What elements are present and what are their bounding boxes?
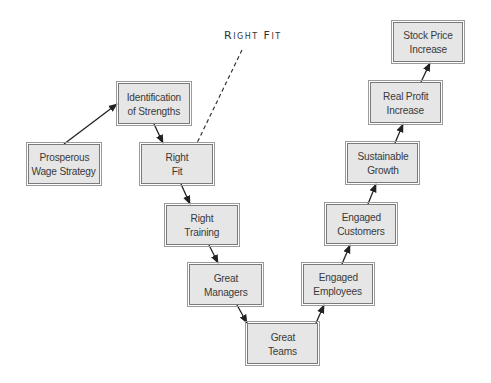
node-label-line1: Engaged xyxy=(318,270,357,284)
node-label-line1: Prosperous xyxy=(39,150,89,164)
node-stock-price-increase: Stock Price Increase xyxy=(393,22,463,62)
node-label-line2: of Strengths xyxy=(128,104,180,118)
arrow-great-teams-to-engaged-employees xyxy=(316,305,324,323)
node-label-line1: Right xyxy=(191,211,214,225)
arrow-sustainable-growth-to-real-profit xyxy=(395,124,403,143)
node-label-line1: Real Profit xyxy=(383,89,428,103)
node-label-line2: Customers xyxy=(337,224,384,238)
right-fit-annotation-label: Right Fit xyxy=(224,29,282,42)
node-label-line2: Teams xyxy=(268,344,297,358)
node-label-line2: Increase xyxy=(409,42,446,56)
arrow-real-profit-to-stock-price xyxy=(421,63,430,82)
node-label-line2: Employees xyxy=(314,284,362,298)
arrow-engaged-customers-to-sustainable-growth xyxy=(368,184,376,204)
arrow-right-training-to-great-managers xyxy=(209,245,218,263)
dashed-annotation-line xyxy=(197,50,242,143)
node-great-managers: Great Managers xyxy=(189,264,262,305)
node-right-fit: Right Fit xyxy=(141,144,213,184)
node-label-line1: Stock Price xyxy=(403,28,452,42)
arrow-great-managers-to-great-teams xyxy=(237,305,247,323)
arrow-prosperous-to-identification xyxy=(64,104,117,144)
node-engaged-customers: Engaged Customers xyxy=(326,204,396,244)
node-label-line1: Great xyxy=(270,330,294,344)
node-label-line2: Increase xyxy=(387,103,424,117)
diagram-canvas: Right Fit Prosperous Wage Strategy Ident… xyxy=(0,0,491,383)
node-label-line1: Great xyxy=(213,271,237,285)
node-label-line1: Engaged xyxy=(341,210,380,224)
arrow-engaged-employees-to-engaged-customers xyxy=(342,245,350,264)
node-right-training: Right Training xyxy=(166,205,238,245)
node-label-line2: Growth xyxy=(367,163,399,177)
node-label-line2: Managers xyxy=(204,285,248,299)
arrow-right-fit-to-right-training xyxy=(181,184,190,204)
node-great-teams: Great Teams xyxy=(247,323,318,364)
node-label-line1: Right xyxy=(166,150,189,164)
node-label-line1: Identification xyxy=(127,90,181,104)
node-engaged-employees: Engaged Employees xyxy=(303,264,373,304)
node-sustainable-growth: Sustainable Growth xyxy=(347,143,418,183)
node-identification-of-strengths: Identification of Strengths xyxy=(118,83,190,124)
node-label-line2: Fit xyxy=(172,164,183,178)
arrow-identification-to-right-fit xyxy=(154,124,163,143)
node-label-line1: Sustainable xyxy=(357,149,408,163)
node-label-line2: Training xyxy=(185,225,220,239)
node-label-line2: Wage Strategy xyxy=(32,164,96,178)
node-prosperous-wage-strategy: Prosperous Wage Strategy xyxy=(28,144,100,184)
node-real-profit-increase: Real Profit Increase xyxy=(370,82,441,123)
